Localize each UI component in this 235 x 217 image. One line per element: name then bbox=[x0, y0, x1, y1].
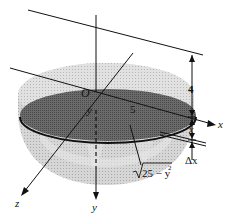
water-slice bbox=[20, 89, 196, 143]
z-axis-label: z bbox=[14, 197, 20, 209]
y-axis-upper-label: y bbox=[86, 104, 92, 116]
x-axis-arrow-icon bbox=[207, 120, 216, 127]
x-axis-label: x bbox=[217, 118, 223, 130]
depth-label: x bbox=[188, 124, 194, 135]
z-axis-arrow-icon bbox=[21, 187, 29, 196]
radius-label: 5 bbox=[130, 103, 136, 115]
y-axis-arrow-icon bbox=[93, 192, 99, 200]
hemisphere-diagram: O 5 y y x z 4 x Δx 25 − y 2 bbox=[0, 0, 235, 217]
top-plane-line bbox=[28, 10, 203, 55]
svg-text:25 − y: 25 − y bbox=[142, 167, 171, 179]
origin-label: O bbox=[81, 86, 90, 100]
thickness-label: Δx bbox=[185, 154, 198, 166]
y-axis-label: y bbox=[91, 201, 97, 213]
svg-text:2: 2 bbox=[168, 164, 172, 172]
height-label: 4 bbox=[188, 83, 194, 95]
